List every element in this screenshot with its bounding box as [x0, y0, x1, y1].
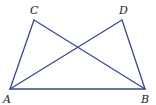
point-label-c: C — [30, 4, 39, 17]
segment-ac — [10, 20, 34, 89]
geometry-diagram: ABCD — [0, 0, 156, 105]
segments — [10, 20, 145, 89]
segment-ad — [10, 20, 122, 89]
point-label-b: B — [140, 93, 149, 105]
segment-bc — [34, 20, 145, 89]
segment-bd — [122, 20, 145, 89]
diagram-canvas: ABCD — [0, 0, 156, 105]
point-label-a: A — [2, 93, 11, 105]
point-label-d: D — [118, 4, 128, 17]
point-labels: ABCD — [2, 4, 149, 105]
